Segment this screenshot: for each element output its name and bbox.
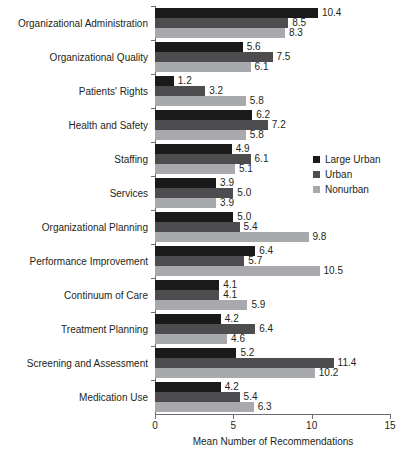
y-axis-tick xyxy=(151,380,155,381)
legend-label: Large Urban xyxy=(325,154,381,165)
bar-large-urban[interactable] xyxy=(155,212,233,222)
bar-nonurban[interactable] xyxy=(155,198,216,208)
bar-nonurban[interactable] xyxy=(155,96,246,106)
legend-item[interactable]: Urban xyxy=(313,167,381,182)
bar-row: 1.2 xyxy=(155,76,390,86)
bar-group: Medication Use4.25.46.3 xyxy=(155,380,390,414)
bar-row: 8.5 xyxy=(155,18,390,28)
bar-nonurban[interactable] xyxy=(155,402,254,412)
category-label: Health and Safety xyxy=(69,120,149,131)
bar-nonurban[interactable] xyxy=(155,62,251,72)
bar-value-label: 8.3 xyxy=(289,28,303,38)
bar-urban[interactable] xyxy=(155,154,251,164)
y-axis-tick xyxy=(151,244,155,245)
bar-large-urban[interactable] xyxy=(155,76,174,86)
bar-large-urban[interactable] xyxy=(155,110,252,120)
legend-label: Nonurban xyxy=(325,184,369,195)
bar-urban[interactable] xyxy=(155,290,219,300)
bar-value-label: 6.3 xyxy=(258,402,272,412)
bar-urban[interactable] xyxy=(155,358,334,368)
bar-row: 5.8 xyxy=(155,96,390,106)
bar-value-label: 6.1 xyxy=(255,62,269,72)
bar-row: 5.6 xyxy=(155,42,390,52)
bar-row: 5.0 xyxy=(155,212,390,222)
bar-urban[interactable] xyxy=(155,86,205,96)
x-axis-tick xyxy=(312,415,313,419)
bar-row: 7.5 xyxy=(155,52,390,62)
legend-swatch-icon xyxy=(313,171,320,178)
category-label: Services xyxy=(110,188,148,199)
bar-row: 5.4 xyxy=(155,392,390,402)
bar-value-label: 7.2 xyxy=(272,120,286,130)
legend-item[interactable]: Large Urban xyxy=(313,152,381,167)
y-axis-tick xyxy=(151,346,155,347)
bar-value-label: 4.9 xyxy=(236,144,250,154)
bar-large-urban[interactable] xyxy=(155,314,221,324)
bar-urban[interactable] xyxy=(155,392,240,402)
bar-large-urban[interactable] xyxy=(155,42,243,52)
y-axis-tick xyxy=(151,210,155,211)
x-axis-tick xyxy=(233,415,234,419)
bar-row: 7.2 xyxy=(155,120,390,130)
bar-row: 5.7 xyxy=(155,256,390,266)
bar-group: Organizational Administration10.48.58.3 xyxy=(155,6,390,40)
bar-value-label: 1.2 xyxy=(178,76,192,86)
bar-value-label: 6.2 xyxy=(256,110,270,120)
bar-row: 6.1 xyxy=(155,62,390,72)
bar-nonurban[interactable] xyxy=(155,266,320,276)
bar-value-label: 7.5 xyxy=(277,52,291,62)
bar-urban[interactable] xyxy=(155,222,240,232)
y-axis-tick xyxy=(151,6,155,7)
category-label: Screening and Assessment xyxy=(27,358,148,369)
bar-large-urban[interactable] xyxy=(155,382,221,392)
legend-item[interactable]: Nonurban xyxy=(313,182,381,197)
bar-row: 5.4 xyxy=(155,222,390,232)
bar-row: 6.3 xyxy=(155,402,390,412)
bar-nonurban[interactable] xyxy=(155,232,309,242)
bar-nonurban[interactable] xyxy=(155,28,285,38)
bar-value-label: 5.1 xyxy=(239,164,253,174)
x-axis-tick xyxy=(155,415,156,419)
y-axis-tick xyxy=(151,142,155,143)
y-axis-tick xyxy=(151,40,155,41)
category-label: Medication Use xyxy=(79,392,148,403)
bar-value-label: 4.6 xyxy=(231,334,245,344)
y-axis-tick xyxy=(151,278,155,279)
bar-row: 3.2 xyxy=(155,86,390,96)
bar-value-label: 10.2 xyxy=(319,368,338,378)
plot-area: Organizational Administration10.48.58.3O… xyxy=(155,6,390,414)
bar-group: Performance Improvement6.45.710.5 xyxy=(155,244,390,278)
x-axis-tick-label: 10 xyxy=(306,420,317,431)
bar-nonurban[interactable] xyxy=(155,368,315,378)
bar-value-label: 6.4 xyxy=(259,324,273,334)
category-label: Organizational Administration xyxy=(18,18,148,29)
bar-urban[interactable] xyxy=(155,18,288,28)
bar-row: 6.4 xyxy=(155,324,390,334)
bar-value-label: 5.4 xyxy=(244,222,258,232)
x-axis-title: Mean Number of Recommendations xyxy=(155,436,391,447)
bar-nonurban[interactable] xyxy=(155,300,247,310)
bar-group: Health and Safety6.27.25.8 xyxy=(155,108,390,142)
bar-group: Organizational Quality5.67.56.1 xyxy=(155,40,390,74)
bar-nonurban[interactable] xyxy=(155,130,246,140)
category-label: Staffing xyxy=(114,154,148,165)
bar-nonurban[interactable] xyxy=(155,334,227,344)
bar-value-label: 10.5 xyxy=(324,266,343,276)
y-axis-tick xyxy=(151,312,155,313)
bar-row: 8.3 xyxy=(155,28,390,38)
bar-large-urban[interactable] xyxy=(155,178,216,188)
bar-large-urban[interactable] xyxy=(155,144,232,154)
bar-value-label: 4.2 xyxy=(225,382,239,392)
bar-row: 11.4 xyxy=(155,358,390,368)
bar-large-urban[interactable] xyxy=(155,348,236,358)
chart-legend: Large UrbanUrbanNonurban xyxy=(313,152,381,197)
bar-urban[interactable] xyxy=(155,256,244,266)
bar-nonurban[interactable] xyxy=(155,164,235,174)
bar-row: 5.8 xyxy=(155,130,390,140)
bar-large-urban[interactable] xyxy=(155,246,255,256)
category-label: Continuum of Care xyxy=(64,290,148,301)
bar-row: 4.6 xyxy=(155,334,390,344)
bar-value-label: 5.0 xyxy=(237,188,251,198)
bar-value-label: 3.9 xyxy=(220,178,234,188)
bar-large-urban[interactable] xyxy=(155,280,219,290)
